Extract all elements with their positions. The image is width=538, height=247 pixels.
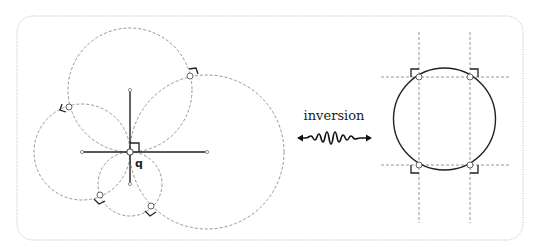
inversion-label: inversion xyxy=(304,108,365,123)
intersection-point xyxy=(416,74,422,80)
intersection-point xyxy=(66,104,72,110)
inversion-arrow-group: inversion xyxy=(297,108,372,144)
intersection-point xyxy=(467,162,473,168)
left-panel: q xyxy=(34,28,284,229)
line-endpoints xyxy=(80,88,208,185)
dashed-grid-lines xyxy=(381,32,509,223)
cross-lines xyxy=(82,90,207,184)
point-q-label: q xyxy=(135,157,143,170)
point-q xyxy=(127,149,133,155)
dashed-circles xyxy=(34,28,284,229)
arrowhead-left-icon xyxy=(297,135,303,142)
inverted-circle xyxy=(394,68,496,170)
grid-intersection-points xyxy=(416,74,473,168)
arrowhead-right-icon xyxy=(366,135,372,142)
intersection-point xyxy=(467,74,473,80)
intersection-point xyxy=(97,192,103,198)
inversion-diagram: q inversion xyxy=(0,0,538,247)
right-panel xyxy=(381,32,509,223)
wavy-arrow-icon xyxy=(300,132,368,144)
intersection-point xyxy=(416,162,422,168)
diagram-frame xyxy=(17,16,523,240)
intersection-point xyxy=(148,203,154,209)
intersection-point xyxy=(187,73,193,79)
corner-angle-markers xyxy=(411,69,478,173)
